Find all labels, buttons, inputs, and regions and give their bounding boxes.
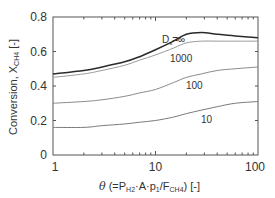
x-axis-title: θ (=PH2·A·p1/FCH4) [-] xyxy=(99,180,200,193)
curves xyxy=(53,33,258,128)
x-tick-label: 1 xyxy=(52,160,59,174)
plot-frame xyxy=(53,17,258,155)
curve-label-inf: Ds=∞ xyxy=(162,34,185,46)
curve-label-1000: 1000 xyxy=(170,53,193,64)
y-axis-title: Conversion, XCH4 [-] xyxy=(7,39,20,135)
curve-label-10: 10 xyxy=(201,114,213,125)
y-ticks xyxy=(53,52,258,121)
y-tick-label: 0.6 xyxy=(30,45,47,59)
x-tick-label: 100 xyxy=(245,160,265,174)
curve-label-100: 100 xyxy=(186,80,203,91)
y-tick-label: 0.8 xyxy=(30,10,47,24)
curve-Ds xyxy=(53,33,258,74)
curve-10 xyxy=(53,102,258,128)
y-tick-label: 0 xyxy=(40,148,47,162)
y-tick-label: 0.4 xyxy=(30,79,47,93)
curve-1000 xyxy=(53,41,258,77)
y-tick-label: 0.2 xyxy=(30,114,47,128)
curve-100 xyxy=(53,67,258,103)
conversion-chart: 0 0.2 0.4 0.6 0.8 1 10 100 Conversion, X… xyxy=(0,0,275,198)
x-tick-label: 10 xyxy=(149,160,163,174)
